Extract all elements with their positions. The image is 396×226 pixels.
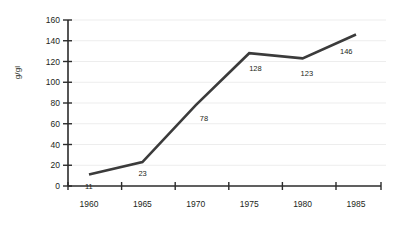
data-point-label: 128 (249, 65, 262, 73)
x-axis-tick-label: 1980 (277, 200, 329, 209)
x-axis-tick-label: 1960 (63, 200, 115, 209)
x-axis-tick-label: 1985 (330, 200, 382, 209)
data-point-label: 11 (85, 183, 93, 191)
plot-area (0, 0, 396, 226)
y-axis-tick-label: 60 (30, 120, 60, 129)
y-axis-tick-label: 80 (30, 99, 60, 108)
data-series-line (89, 35, 356, 175)
x-axis-tick-label: 1965 (116, 200, 168, 209)
y-axis-tick-label: 160 (30, 16, 60, 25)
line-chart: g/gl 020406080100120140160 1960196519701… (0, 0, 396, 226)
y-axis-tick-label: 20 (30, 161, 60, 170)
y-axis-tick-label: 40 (30, 141, 60, 150)
data-point-label: 123 (301, 70, 314, 78)
y-axis-tick-label: 0 (30, 182, 60, 191)
data-point-label: 78 (200, 115, 208, 123)
x-axis-tick-label: 1970 (170, 200, 222, 209)
x-axis-tick-label: 1975 (223, 200, 275, 209)
data-point-label: 23 (138, 170, 146, 178)
y-axis-tick-label: 120 (30, 58, 60, 67)
data-point-label: 146 (340, 48, 353, 56)
y-axis-tick-label: 100 (30, 78, 60, 87)
y-axis-tick-label: 140 (30, 37, 60, 46)
